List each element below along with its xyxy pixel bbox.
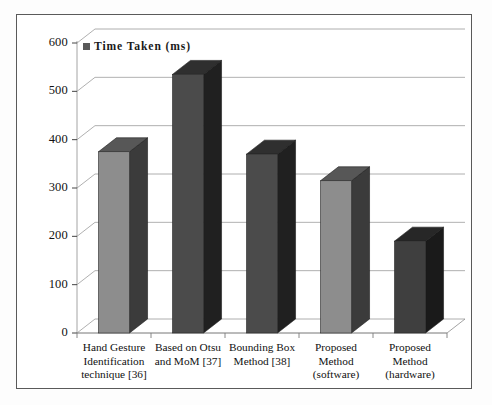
y-tick-label-600: 600 xyxy=(17,35,68,50)
chart-legend: Time Taken (ms) xyxy=(83,40,191,53)
y-tick-label-0: 0 xyxy=(17,325,68,340)
plot-canvas xyxy=(17,15,473,390)
bar-chart-svg xyxy=(17,15,473,390)
bar-2 xyxy=(172,60,221,333)
y-tick-label-200: 200 xyxy=(17,228,68,243)
bars-group xyxy=(98,60,443,333)
y-tick-label-100: 100 xyxy=(17,277,68,292)
figure-root: 0100200300400500600 Hand Gesture Identif… xyxy=(0,0,492,405)
y-tick-label-400: 400 xyxy=(17,132,68,147)
legend-label: Time Taken (ms) xyxy=(94,40,191,53)
bar-3 xyxy=(246,140,295,333)
bar-1 xyxy=(98,138,147,333)
y-tick-label-300: 300 xyxy=(17,180,68,195)
x-category-label-5: Proposed Method (hardware) xyxy=(367,341,453,382)
legend-square-icon xyxy=(83,43,90,50)
y-tick-label-500: 500 xyxy=(17,83,68,98)
bar-4 xyxy=(320,167,369,333)
chart-frame: 0100200300400500600 Hand Gesture Identif… xyxy=(16,14,472,389)
bar-5 xyxy=(394,227,443,333)
